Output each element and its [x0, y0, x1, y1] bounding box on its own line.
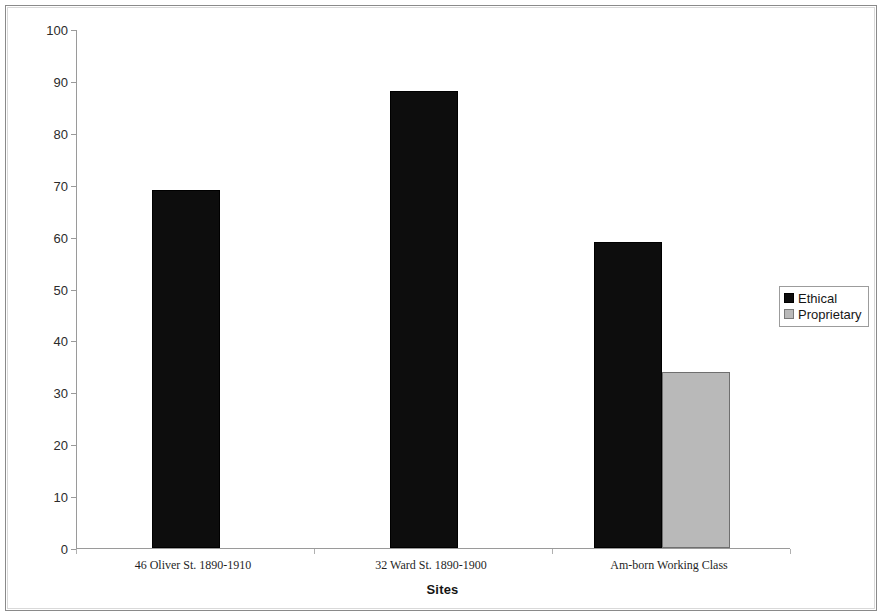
bar-proprietary-3 — [662, 372, 730, 548]
x-tick-mark — [552, 549, 553, 554]
bar-ethical-1 — [152, 190, 220, 548]
legend-label: Ethical — [798, 292, 837, 305]
y-tick-label: 20 — [26, 439, 68, 452]
x-category-label: 46 Oliver St. 1890-1910 — [135, 558, 252, 573]
y-tick-label: 30 — [26, 387, 68, 400]
chart-figure: Percent 0102030405060708090100 46 Oliver… — [0, 0, 885, 616]
y-tick-label: 40 — [26, 335, 68, 348]
bar-ethical-2 — [390, 91, 458, 548]
bar-ethical-3 — [594, 242, 662, 548]
x-category-label: 32 Ward St. 1890-1900 — [375, 558, 486, 573]
x-tick-mark — [790, 549, 791, 554]
y-tick-label: 90 — [26, 75, 68, 88]
legend-label: Proprietary — [798, 308, 862, 321]
y-tick-label: 10 — [26, 491, 68, 504]
y-tick-label: 70 — [26, 179, 68, 192]
y-tick-label: 60 — [26, 231, 68, 244]
y-tick-label: 0 — [26, 543, 68, 556]
plot-area — [76, 30, 790, 549]
x-axis-title: Sites — [0, 582, 885, 597]
legend-item-proprietary: Proprietary — [784, 306, 862, 322]
x-tick-mark — [76, 549, 77, 554]
black-square-swatch — [784, 293, 794, 303]
chart-legend: EthicalProprietary — [779, 286, 869, 327]
x-tick-mark — [314, 549, 315, 554]
y-tick-label: 50 — [26, 283, 68, 296]
gray-square-swatch — [784, 309, 794, 319]
x-category-label: Am-born Working Class — [610, 558, 727, 573]
y-tick-label: 100 — [26, 24, 68, 37]
legend-item-ethical: Ethical — [784, 290, 862, 306]
y-tick-label: 80 — [26, 127, 68, 140]
